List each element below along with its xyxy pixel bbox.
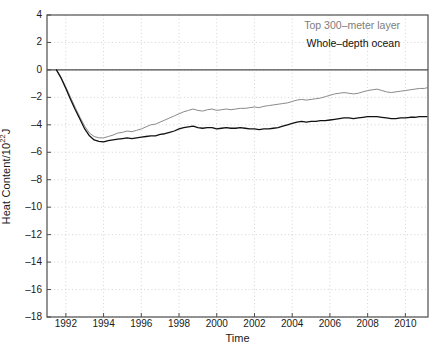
y-axis-title-exponent: 22	[0, 134, 7, 143]
x-tick-label: 2008	[348, 318, 388, 329]
x-tick-label: 2010	[385, 318, 425, 329]
grid-lines	[47, 15, 428, 317]
series-line-whole-depth	[56, 70, 427, 142]
x-tick-label: 2002	[234, 318, 274, 329]
x-tick-label: 2006	[310, 318, 350, 329]
x-tick-label: 1992	[46, 318, 86, 329]
x-axis-title: Time	[47, 332, 428, 344]
x-tick-label: 2000	[197, 318, 237, 329]
y-tick-label: –2	[16, 92, 42, 102]
y-tick-label: 2	[16, 37, 42, 47]
y-tick-label: –12	[16, 230, 42, 240]
data-series-layer	[56, 70, 427, 142]
y-axis-title-unit: J	[0, 129, 12, 135]
x-tick-label: 1994	[84, 318, 124, 329]
y-tick-label: –14	[16, 257, 42, 267]
y-tick-label: –8	[16, 175, 42, 185]
x-tick-label: 1998	[159, 318, 199, 329]
y-tick-label: 0	[16, 65, 42, 75]
y-axis-title: Heat Content/1022J	[0, 0, 18, 353]
y-tick-label: –4	[16, 120, 42, 130]
axis-ticks	[47, 15, 405, 317]
y-axis-title-prefix: Heat Content/10	[0, 143, 12, 225]
y-tick-label: –6	[16, 147, 42, 157]
y-tick-label: –16	[16, 285, 42, 295]
y-tick-label: –10	[16, 202, 42, 212]
heat-content-line-chart	[0, 0, 436, 353]
chart-figure: 420–2–4–6–8–10–12–14–16–18 1992199419961…	[0, 0, 436, 353]
x-tick-label: 1996	[121, 318, 161, 329]
legend-item-whole-depth: Whole–depth ocean	[307, 37, 400, 49]
plot-frame	[47, 15, 428, 317]
y-tick-label: 4	[16, 10, 42, 20]
y-tick-label: –18	[16, 312, 42, 322]
x-tick-label: 2004	[272, 318, 312, 329]
legend-item-top300: Top 300–meter layer	[304, 19, 400, 31]
